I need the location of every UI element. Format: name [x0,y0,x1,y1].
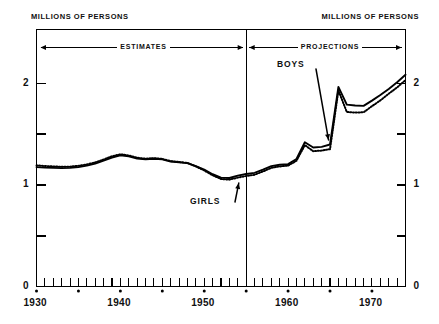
band-label-estimates: ESTIMATES [117,43,169,50]
girls-pointer-head [235,183,240,189]
x-axis-label-1970: 1970 [359,297,382,308]
x-dot-marker-1955 [245,290,248,293]
x-dot-marker-1960 [287,290,290,293]
x-axis-label-1950: 1950 [191,297,214,308]
annotation-arrows [235,69,330,202]
y-axis-label-right-2: 2 [414,77,420,88]
axis-title-right: MILLIONS OF PERSONS [321,12,419,21]
x-axis-label-1930: 1930 [24,297,47,308]
boys-pointer [316,69,329,140]
x-dot-marker-1970 [370,290,373,293]
x-dot-marker-1935 [77,290,80,293]
x-dot-marker-1945 [161,290,164,293]
band-arrow-head [249,45,255,50]
axis-title-left: MILLIONS OF PERSONS [31,12,129,21]
band-arrow-head [238,45,244,50]
y-axis-label-right-0: 0 [414,280,420,291]
y-axis-label-left-2: 2 [23,77,29,88]
x-dot-marker-1930 [35,290,38,293]
series-label-boys: BOYS [277,59,305,69]
y-axis-label-right-1: 1 [414,178,420,189]
plot-area [0,0,439,324]
plot-frame [37,30,406,287]
data-series [37,75,406,180]
y-axis-label-left-0: 0 [23,280,29,291]
plot-border [37,30,406,287]
band-arrow-head [396,45,402,50]
chart-figure: MILLIONS OF PERSONS MILLIONS OF PERSONS … [0,0,439,324]
y-axis-label-left-1: 1 [23,178,29,189]
x-axis-label-1960: 1960 [275,297,298,308]
x-axis-label-1940: 1940 [107,297,130,308]
boys-pointer-head [325,134,330,140]
band-arrow-head [41,45,47,50]
series-label-girls: GIRLS [190,196,220,206]
axis-ticks [35,83,406,292]
x-dot-marker-1940 [119,290,122,293]
x-dot-marker-1950 [203,290,206,293]
band-label-projections: PROJECTIONS [298,43,362,50]
x-dot-marker-1965 [329,290,332,293]
